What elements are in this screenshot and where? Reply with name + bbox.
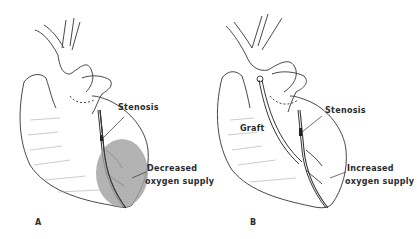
label-oxygen-supply-a: oxygen supply [145,177,214,186]
panel-label-b: B [250,218,256,227]
stenosis-leader-a [103,117,124,138]
label-stenosis-a: Stenosis [118,103,159,112]
label-graft: Graft [240,124,265,133]
label-oxygen-supply-b: oxygen supply [345,177,414,186]
panel-label-a: A [35,218,41,227]
label-stenosis-b: Stenosis [325,106,366,115]
stenosis-leader-b [302,116,322,132]
label-decreased: Decreased [147,164,197,173]
heart-illustrations [0,0,417,239]
label-increased: Increased [347,164,394,173]
